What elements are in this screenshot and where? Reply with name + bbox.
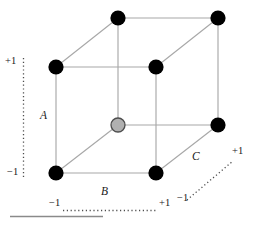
axis-b-label: B	[101, 186, 108, 198]
vertex-front-top-right	[148, 59, 163, 74]
vertex-front-bottom-left	[48, 165, 63, 180]
axis-a-tick-high: +1	[5, 56, 16, 67]
vertex-front-top-left	[48, 59, 63, 74]
edge-bot-right	[156, 125, 218, 173]
axis-c-tick-low: −1	[177, 193, 188, 204]
axis-c-label: C	[192, 151, 200, 163]
axis-b-tick-low: −1	[49, 198, 60, 209]
edge-bot-left	[56, 125, 118, 173]
axis-guides	[24, 58, 234, 211]
axis-a-label: A	[40, 110, 47, 122]
vertex-back-bottom-left-highlighted	[111, 118, 125, 132]
vertex-front-bottom-right	[148, 165, 163, 180]
vertex-back-bottom-right	[210, 117, 225, 132]
cube-svg	[0, 0, 253, 225]
axis-c-tick-high: +1	[232, 146, 243, 157]
factorial-cube-figure: +1 −1 A −1 +1 B −1 +1 C	[0, 0, 253, 225]
vertex-back-top-right	[210, 10, 225, 25]
edge-top-left	[56, 18, 118, 67]
edge-top-right	[156, 18, 218, 67]
axis-a-tick-low: −1	[7, 167, 18, 178]
axis-b-tick-high: +1	[159, 198, 170, 209]
axis-c-dotted-line	[187, 161, 233, 200]
vertex-back-top-left	[110, 10, 125, 25]
